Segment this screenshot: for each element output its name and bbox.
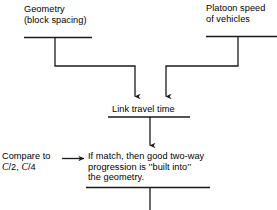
node-if-match-line3: the geometry. <box>88 172 144 182</box>
node-link-travel-time: Link travel time <box>112 104 175 115</box>
node-platoon-line2: of vehicles <box>206 14 250 24</box>
node-compare-mid: /2, <box>8 162 21 172</box>
node-compare-suffix: /4 <box>28 162 36 172</box>
edge-platoon-to-link <box>166 37 238 97</box>
node-if-match-line2: progression is ’’built into’’ <box>88 162 191 172</box>
node-geometry-line2: (block spacing) <box>24 15 87 25</box>
node-if-match: If match, then good two-wayprogression i… <box>88 151 204 183</box>
node-geometry: Geometry(block spacing) <box>24 4 87 25</box>
node-link-travel-time-line1: Link travel time <box>112 104 175 114</box>
node-compare-to: Compare toC/2, C/4 <box>2 151 51 172</box>
node-platoon-line1: Platoon speed <box>206 3 265 13</box>
edge-geometry-to-link <box>55 38 135 97</box>
node-if-match-line1: If match, then good two-way <box>88 151 204 161</box>
node-geometry-line1: Geometry <box>24 4 65 14</box>
flowchart-canvas: Geometry(block spacing) Platoon speedof … <box>0 0 277 210</box>
node-platoon-speed: Platoon speedof vehicles <box>206 3 265 24</box>
node-compare-line1: Compare to <box>2 151 51 161</box>
